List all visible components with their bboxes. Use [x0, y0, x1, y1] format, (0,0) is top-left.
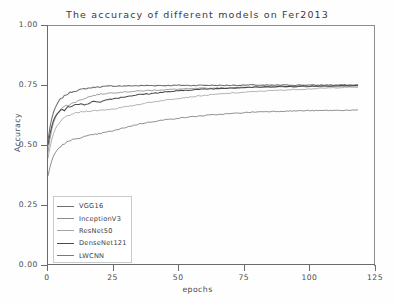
legend-swatch-icon: [57, 230, 74, 231]
x-axis-tick: [178, 265, 179, 271]
series-line-vgg16: [48, 85, 358, 141]
legend-swatch-icon: [57, 218, 74, 219]
x-axis-label: epochs: [0, 285, 395, 294]
x-axis-tick-label: 50: [163, 273, 193, 282]
y-axis-tick-label: 0.50: [4, 140, 38, 149]
x-axis-tick: [244, 265, 245, 271]
series-line-densenet121: [48, 85, 358, 145]
legend-label: ResNet50: [79, 227, 113, 235]
x-axis-tick-label: 0: [32, 273, 62, 282]
series-line-lwcnn: [48, 110, 358, 176]
y-axis-tick: [41, 145, 47, 146]
chart-title: The accuracy of different models on Fer2…: [0, 9, 395, 20]
x-axis-tick: [375, 265, 376, 271]
legend-label: VGG16: [79, 202, 103, 210]
y-axis-tick: [41, 25, 47, 26]
chart-figure: The accuracy of different models on Fer2…: [0, 0, 395, 303]
legend-swatch-icon: [57, 255, 74, 256]
x-axis-tick: [113, 265, 114, 271]
y-axis-tick-label: 1.00: [4, 20, 38, 29]
legend-label: InceptionV3: [79, 215, 121, 223]
legend-item-densenet121[interactable]: DenseNet121: [54, 237, 131, 249]
legend-item-resnet50[interactable]: ResNet50: [54, 225, 131, 237]
legend-item-inceptionv3[interactable]: InceptionV3: [54, 212, 131, 224]
y-axis-tick-label: 0.25: [4, 200, 38, 209]
chart-legend: VGG16InceptionV3ResNet50DenseNet121LWCNN: [53, 196, 132, 263]
y-axis-tick: [41, 85, 47, 86]
legend-item-lwcnn[interactable]: LWCNN: [54, 250, 131, 262]
y-axis-tick: [41, 205, 47, 206]
legend-item-vgg16[interactable]: VGG16: [54, 200, 131, 212]
series-line-resnet50: [48, 87, 358, 158]
legend-label: DenseNet121: [79, 239, 127, 247]
x-axis-tick: [47, 265, 48, 271]
x-axis-tick-label: 125: [360, 273, 390, 282]
legend-swatch-icon: [57, 206, 74, 207]
y-axis-tick-label: 0.75: [4, 80, 38, 89]
legend-label: LWCNN: [79, 252, 104, 260]
x-axis-tick-label: 25: [98, 273, 128, 282]
x-axis-tick-label: 75: [229, 273, 259, 282]
y-axis-tick-label: 0.00: [4, 260, 38, 269]
x-axis-tick: [309, 265, 310, 271]
legend-swatch-icon: [57, 243, 74, 244]
y-axis-label: Accuracy: [13, 103, 22, 163]
x-axis-tick-label: 100: [294, 273, 324, 282]
